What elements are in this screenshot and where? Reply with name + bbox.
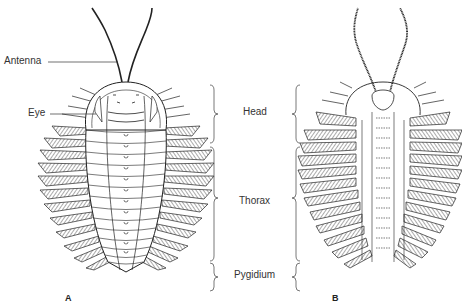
trilobite-diagram bbox=[0, 0, 462, 303]
antennae-b bbox=[354, 8, 407, 92]
thorax-label: Thorax bbox=[239, 196, 270, 206]
antenna-label: Antenna bbox=[4, 56, 41, 66]
trilobite-ventral-view bbox=[298, 8, 462, 268]
panel-letter-b: B bbox=[332, 293, 339, 303]
panel-letter-a: A bbox=[65, 293, 72, 303]
antennae-a bbox=[92, 8, 152, 82]
region-braces-b bbox=[292, 85, 300, 291]
legs-left-b bbox=[298, 82, 372, 268]
eye-label: Eye bbox=[28, 108, 45, 118]
region-braces-a bbox=[210, 85, 218, 291]
pygidium-label: Pygidium bbox=[234, 270, 275, 280]
hypostome-b bbox=[372, 90, 394, 110]
head-label: Head bbox=[243, 107, 267, 117]
trilobite-dorsal-view bbox=[38, 8, 214, 272]
